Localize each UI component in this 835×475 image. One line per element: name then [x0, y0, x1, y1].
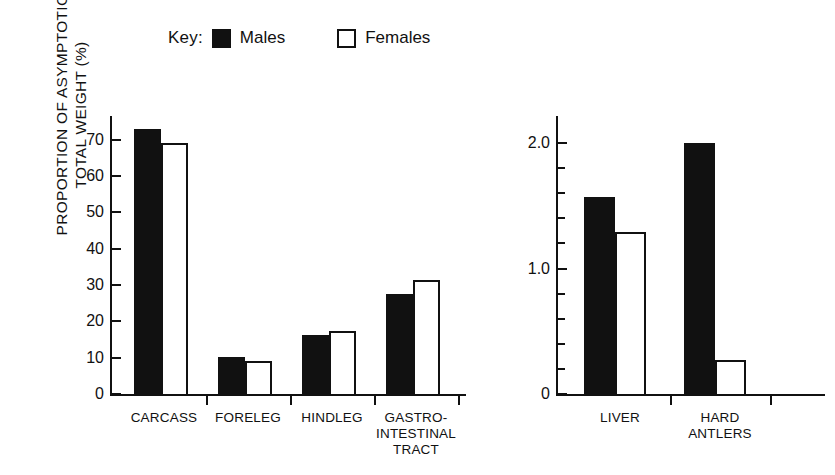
y-axis-tick [558, 318, 565, 320]
plot-area-right: 01.02.0LIVERHARDANTLERS [540, 110, 825, 402]
y-axis-tick [112, 320, 121, 322]
y-axis-tick [558, 343, 565, 345]
chart-panel-left: 010203040506070CARCASSFORELEGHINDLEGGAST… [96, 110, 466, 402]
y-axis-tick [558, 393, 567, 395]
y-axis-tick [558, 142, 567, 144]
y-axis-tick-label: 0 [506, 385, 550, 403]
bar-female [413, 280, 440, 394]
bar-female [161, 143, 188, 394]
bar-male [684, 143, 715, 394]
y-axis-tick-label: 20 [60, 312, 104, 330]
y-axis-tick-label: 0 [60, 385, 104, 403]
y-axis-tick-label: 70 [60, 131, 104, 149]
bar-male [584, 197, 615, 394]
y-axis-tick [558, 293, 565, 295]
y-axis-tick-label: 60 [60, 167, 104, 185]
y-axis-line [556, 116, 558, 396]
y-axis-tick [558, 167, 565, 169]
x-axis-line [556, 394, 825, 396]
y-axis-tick [558, 368, 565, 370]
y-axis-tick [112, 248, 121, 250]
y-axis-tick [112, 211, 121, 213]
bar-female [329, 331, 356, 394]
x-axis-category-tick [374, 396, 376, 405]
y-axis-tick-label: 1.0 [506, 260, 550, 278]
bar-female [715, 360, 746, 394]
x-axis-line [110, 394, 466, 396]
x-axis-category-label-line: TRACT [360, 442, 472, 458]
y-axis-tick-label: 50 [60, 203, 104, 221]
y-axis-tick [112, 139, 121, 141]
y-axis-tick [112, 175, 121, 177]
x-axis-category-tick [206, 396, 208, 405]
x-axis-category-label-line: GASTRO- [360, 410, 472, 426]
y-axis-tick [558, 192, 565, 194]
x-axis-category-label: HARDANTLERS [656, 410, 784, 442]
x-axis-category-label-line: ANTLERS [656, 426, 784, 442]
x-axis-category-label-line: INTESTINAL [360, 426, 472, 442]
open-square-icon [337, 29, 356, 48]
y-axis-tick-label: 2.0 [506, 134, 550, 152]
bar-male [386, 294, 413, 394]
bar-female [245, 361, 272, 394]
chart-legend: Key: Males Females [168, 28, 430, 48]
y-axis-tick [112, 357, 121, 359]
x-axis-category-tick [770, 396, 772, 405]
x-axis-category-label: GASTRO-INTESTINALTRACT [360, 410, 472, 458]
legend-key-label: Key: [168, 28, 203, 48]
chart-panel-right: 01.02.0LIVERHARDANTLERS [540, 110, 825, 402]
x-axis-category-tick [290, 396, 292, 405]
bar-female [615, 232, 646, 394]
bar-male [218, 357, 245, 394]
plot-area-left: 010203040506070CARCASSFORELEGHINDLEGGAST… [96, 110, 466, 402]
y-axis-tick [112, 393, 121, 395]
x-axis-category-tick [458, 396, 460, 405]
legend-label-males: Males [240, 28, 285, 48]
y-axis-line [110, 116, 112, 396]
y-axis-tick [558, 242, 565, 244]
y-axis-tick [558, 268, 567, 270]
bar-male [302, 335, 329, 394]
x-axis-category-tick [670, 396, 672, 405]
legend-label-females: Females [365, 28, 430, 48]
y-axis-tick-label: 30 [60, 276, 104, 294]
x-axis-category-label-line: HARD [656, 410, 784, 426]
filled-square-icon [212, 29, 231, 48]
bar-male [134, 129, 161, 394]
y-axis-tick [112, 284, 121, 286]
y-axis-tick [558, 217, 565, 219]
y-axis-tick-label: 10 [60, 349, 104, 367]
y-axis-tick-label: 40 [60, 240, 104, 258]
